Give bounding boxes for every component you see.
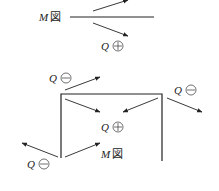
top-moment-label-suffix: 図 [50, 11, 61, 23]
frame-moment-label-var: M [100, 148, 111, 160]
plus-circle-icon [113, 122, 123, 132]
top-arrow-up [93, 0, 128, 11]
frame-shear-label-top-right-var: Q [174, 84, 182, 96]
arrow-top-left-in [65, 99, 100, 112]
frame-shear-label-center-var: Q [101, 121, 109, 133]
plus-circle-icon [113, 41, 123, 51]
top-arrow-down [93, 23, 128, 36]
arrow-bottom-left-out [22, 143, 58, 157]
frame-shear-label-bottom-left-var: Q [27, 158, 35, 170]
top-moment-label-var: M [38, 11, 49, 23]
frame-diagram: Q Q Q Q M 図 [22, 72, 202, 170]
frame-moment-label-suffix: 図 [112, 148, 123, 160]
arrow-bottom-left-in [65, 143, 100, 157]
minus-circle-icon [39, 159, 49, 169]
frame-shear-label-top-left-var: Q [49, 72, 57, 84]
arrow-top-right-in [123, 98, 158, 112]
top-shear-label-var: Q [101, 40, 109, 52]
diagram-canvas: M 図 Q Q Q Q [0, 0, 219, 191]
minus-circle-icon [186, 85, 196, 95]
arrow-top-right-out [167, 98, 202, 112]
arrow-top-left-out [65, 77, 100, 90]
top-beam-diagram: M 図 Q [38, 0, 154, 52]
minus-circle-icon [61, 73, 71, 83]
